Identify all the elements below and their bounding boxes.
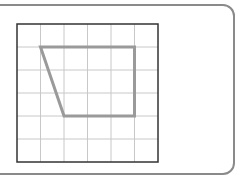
grid-diagram [0,0,248,181]
grid-lines [17,24,158,162]
